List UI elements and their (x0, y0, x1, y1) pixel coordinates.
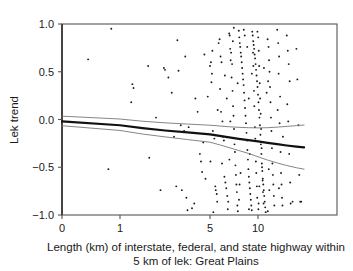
scatter-point (269, 71, 271, 73)
scatter-point (277, 42, 279, 44)
scatter-point (233, 115, 235, 117)
scatter-point (185, 197, 187, 199)
scatter-point (181, 189, 183, 191)
scatter-point (262, 178, 264, 180)
x-axis-title-line-2: 5 km of lek: Great Plains (133, 255, 259, 267)
scatter-point (259, 82, 261, 84)
chart-background (0, 0, 353, 271)
scatter-point (288, 153, 290, 155)
scatter-point (267, 80, 269, 82)
scatter-point (229, 120, 231, 122)
scatter-point (240, 52, 242, 54)
scatter-point (251, 209, 253, 211)
scatter-point (201, 171, 203, 173)
scatter-point (282, 136, 284, 138)
scatter-point (259, 98, 261, 100)
scatter-point (131, 83, 133, 85)
scatter-point (228, 159, 230, 161)
scatter-point (273, 205, 275, 207)
scatter-point (278, 187, 280, 189)
scatter-point (256, 185, 258, 187)
scatter-point (238, 36, 240, 38)
scatter-point (245, 122, 247, 124)
scatter-point (147, 65, 149, 67)
scatter-point (253, 44, 255, 46)
scatter-point (110, 28, 112, 30)
scatter-point (155, 117, 157, 119)
scatter-point (270, 117, 272, 119)
scatter-point (256, 80, 258, 82)
scatter-point (246, 149, 248, 151)
scatter-point (227, 208, 229, 210)
scatter-point (213, 138, 215, 140)
scatter-point (221, 61, 223, 63)
scatter-point (257, 36, 259, 38)
scatter-point (292, 201, 294, 203)
scatter-point (263, 189, 265, 191)
scatter-point (223, 176, 225, 178)
scatter-point (235, 183, 237, 185)
scatter-point (171, 92, 173, 94)
scatter-point (240, 56, 242, 58)
scatter-point (205, 178, 207, 180)
scatter-point (229, 48, 231, 50)
scatter-point (234, 164, 236, 166)
scatter-point (254, 138, 256, 140)
scatter-point (210, 61, 212, 63)
scatter-point (270, 101, 272, 103)
scatter-point (258, 203, 260, 205)
scatter-point (258, 50, 260, 52)
scatter-point (256, 197, 258, 199)
scatter-point (260, 113, 262, 115)
scatter-point (263, 195, 265, 197)
scatter-point (231, 77, 233, 79)
scatter-point (268, 59, 270, 61)
scatter-point (249, 187, 251, 189)
scatter-point (107, 168, 109, 170)
scatter-point (296, 78, 298, 80)
scatter-point (176, 39, 178, 41)
scatter-point (211, 50, 213, 52)
scatter-point (242, 73, 244, 75)
scatter-point (257, 208, 259, 210)
scatter-point (203, 54, 205, 56)
scatter-point (236, 191, 238, 193)
x-axis-title-line-1: Length (km) of interstate, federal, and … (47, 241, 345, 253)
scatter-point (173, 136, 175, 138)
scatter-point (272, 174, 274, 176)
scatter-point (243, 92, 245, 94)
scatter-point (238, 199, 240, 201)
y-tick-label-0: 1.0 (39, 18, 54, 30)
scatter-plot-figure: 1.00.50.0−0.5−1.0 01510 Lek trend Length… (0, 0, 353, 271)
scatter-point (252, 65, 254, 67)
scatter-point (224, 75, 226, 77)
scatter-point (200, 161, 202, 163)
scatter-point (252, 35, 254, 37)
scatter-point (219, 38, 221, 40)
scatter-point (222, 120, 224, 122)
scatter-point (251, 31, 253, 33)
scatter-point (282, 205, 284, 207)
scatter-point (262, 191, 264, 193)
scatter-point (215, 189, 217, 191)
scatter-point (234, 143, 236, 145)
scatter-point (286, 35, 288, 37)
scatter-point (261, 170, 263, 172)
scatter-point (281, 183, 283, 185)
scatter-point (256, 75, 258, 77)
x-tick-label-3: 10 (252, 222, 264, 234)
scatter-point (258, 185, 260, 187)
scatter-point (212, 211, 214, 213)
scatter-point (265, 211, 267, 213)
scatter-point (163, 67, 165, 69)
scatter-point (252, 52, 254, 54)
scatter-point (184, 56, 186, 58)
scatter-point (295, 48, 297, 50)
scatter-point (239, 42, 241, 44)
scatter-point (261, 162, 263, 164)
scatter-point (268, 46, 270, 48)
scatter-point (207, 96, 209, 98)
scatter-point (227, 201, 229, 203)
y-tick-label-1: 0.5 (39, 66, 54, 78)
scatter-point (219, 88, 221, 90)
